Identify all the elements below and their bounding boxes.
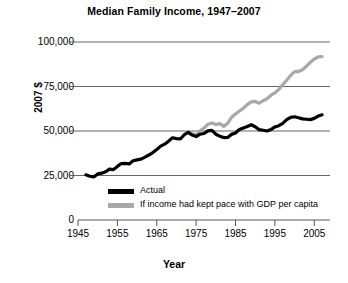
legend-label: If income had kept pace with GDP per cap… xyxy=(140,199,318,209)
series-line xyxy=(188,57,322,135)
plot-area xyxy=(0,0,348,283)
chart-container: Median Family Income, 1947–2007 2007 $ Y… xyxy=(0,0,348,283)
series-line xyxy=(86,115,322,177)
legend-swatch xyxy=(108,189,134,194)
legend-label: Actual xyxy=(140,185,165,195)
legend-swatch xyxy=(108,203,134,208)
